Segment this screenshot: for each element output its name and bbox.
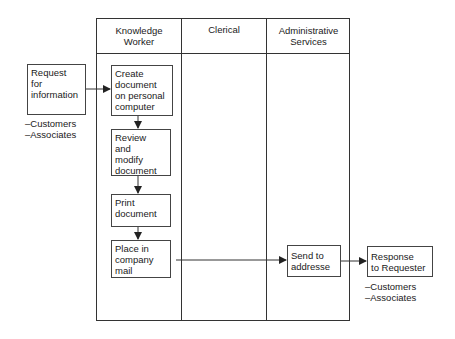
flow-arrows	[0, 0, 455, 339]
